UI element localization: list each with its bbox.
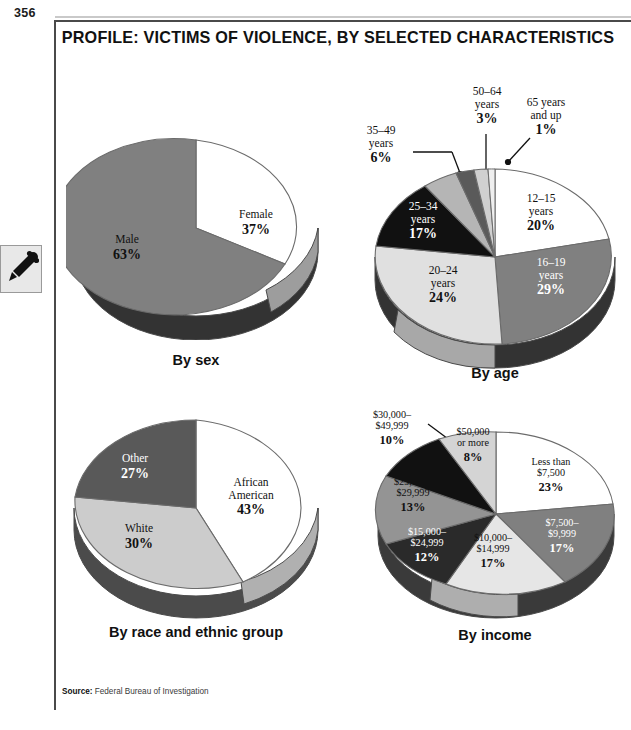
slice-label-16-19-line1: 16–19: [537, 256, 566, 268]
slice-label-65-up-line2: and up: [531, 109, 562, 121]
slice-label-10000-14999: $10,000– $14,999 17%: [456, 532, 530, 570]
slice-label-7500-9999: $7,500– $9,999 17%: [525, 517, 599, 555]
page-number: 356: [14, 6, 36, 20]
slice-label-male-name: Male: [115, 233, 139, 245]
chart-by-sex: Female 37% Male 63% By sex: [66, 130, 346, 380]
slice-label-20-24-line2: years: [431, 277, 455, 289]
slice-label-35-49-line2: years: [369, 137, 393, 149]
slice-label-15000-24999-pct: 12%: [390, 550, 464, 564]
slice-label-65-up: 65 years and up 1%: [510, 96, 582, 138]
slice-label-25-34: 25–34 years 17%: [392, 200, 454, 242]
slice-label-30000-49999: $30,000– $49,999 10%: [354, 409, 430, 447]
chart-by-race: African American 43% White 30% Other 27%…: [66, 410, 346, 660]
slice-label-male-pct: 63%: [94, 247, 160, 263]
slice-label-female: Female 37%: [218, 208, 294, 238]
top-rule: [55, 16, 631, 18]
slice-label-12-15-line1: 12–15: [527, 192, 556, 204]
slice-label-7500-9999-line1: $7,500–: [545, 517, 578, 528]
slice-label-25000-29999-line1: $25,000–: [394, 476, 432, 487]
slice-label-16-19: 16–19 years 29%: [520, 256, 582, 298]
slice-label-30000-49999-line2: $49,999: [375, 420, 408, 431]
slice-label-30000-49999-line1: $30,000–: [373, 409, 411, 420]
slice-label-25-34-line1: 25–34: [409, 200, 438, 212]
slice-label-15000-24999-line1: $15,000–: [408, 526, 446, 537]
slice-label-white-name: White: [125, 522, 153, 534]
slice-label-male: Male 63%: [94, 233, 160, 263]
slice-label-50000-or-more-line1: $50,000: [456, 426, 489, 437]
slice-label-less-7500-pct: 23%: [514, 480, 588, 494]
slice-label-10000-14999-pct: 17%: [456, 556, 530, 570]
slice-label-7500-9999-line2: $9,999: [548, 528, 576, 539]
chart-by-income: Less than $7,500 23% $7,500– $9,999 17% …: [370, 405, 630, 655]
slice-label-less-7500: Less than $7,500 23%: [514, 456, 588, 494]
slice-label-50-64-pct: 3%: [456, 111, 518, 127]
slice-label-50-64-line1: 50–64: [473, 85, 502, 97]
slice-label-african-american-line1: African: [233, 476, 268, 488]
slice-label-less-7500-line2: $7,500: [537, 467, 565, 478]
pie-by-age: 12–15 years 20% 16–19 years 29% 20–24 ye…: [370, 152, 620, 372]
figure-page: 356 PROFILE: VICTIMS OF VIOLENCE, BY SEL…: [0, 0, 631, 730]
slice-label-female-pct: 37%: [218, 222, 294, 238]
source-line: Source: Federal Bureau of Investigation: [62, 687, 209, 696]
slice-label-white-pct: 30%: [104, 536, 174, 552]
slice-label-50-64: 50–64 years 3%: [456, 85, 518, 127]
slice-label-50000-or-more-pct: 8%: [440, 450, 506, 464]
slice-label-50000-or-more: $50,000 or more 8%: [440, 426, 506, 464]
slice-label-65-up-line1: 65 years: [527, 96, 566, 108]
slice-label-less-7500-line1: Less than: [532, 456, 571, 467]
pie-by-race: African American 43% White 30% Other 27%: [66, 410, 326, 620]
caption-by-sex: By sex: [66, 352, 326, 368]
slice-label-15000-24999: $15,000– $24,999 12%: [390, 526, 464, 564]
slice-label-25-34-line2: years: [411, 213, 435, 225]
caption-by-age: By age: [370, 365, 620, 381]
slice-label-25000-29999-line2: $29,999: [396, 487, 429, 498]
slice-label-35-49: 35–49 years 6%: [350, 124, 412, 166]
slice-label-30000-49999-pct: 10%: [354, 433, 430, 447]
slice-label-female-name: Female: [239, 208, 273, 220]
slice-label-16-19-pct: 29%: [520, 282, 582, 298]
chart-by-age: 12–15 years 20% 16–19 years 29% 20–24 ye…: [370, 80, 630, 380]
slice-label-15000-24999-line2: $24,999: [410, 537, 443, 548]
caption-by-income: By income: [370, 627, 620, 643]
slice-label-other: Other 27%: [100, 452, 170, 482]
slice-label-25000-29999: $25,000– $29,999 13%: [376, 476, 450, 514]
caption-by-race: By race and ethnic group: [66, 624, 326, 640]
slice-label-50000-or-more-line2: or more: [457, 437, 489, 448]
slice-label-african-american-pct: 43%: [208, 502, 294, 518]
pen-icon[interactable]: [0, 245, 42, 293]
pie-svg-by-age: [370, 152, 620, 372]
slice-label-african-american: African American 43%: [208, 476, 294, 518]
slice-label-20-24-pct: 24%: [412, 290, 474, 306]
slice-label-other-pct: 27%: [100, 466, 170, 482]
slice-label-20-24: 20–24 years 24%: [412, 264, 474, 306]
slice-label-16-19-line2: years: [539, 269, 563, 281]
slice-label-35-49-line1: 35–49: [367, 124, 396, 136]
source-label: Source:: [62, 687, 92, 696]
pie-by-sex: Female 37% Male 63%: [66, 130, 326, 340]
slice-label-7500-9999-pct: 17%: [525, 541, 599, 555]
source-text: Federal Bureau of Investigation: [95, 687, 209, 696]
slice-label-12-15-pct: 20%: [510, 218, 572, 234]
slice-label-25000-29999-pct: 13%: [376, 500, 450, 514]
page-title: PROFILE: VICTIMS OF VIOLENCE, BY SELECTE…: [58, 28, 618, 47]
slice-label-other-name: Other: [122, 452, 148, 464]
slice-label-12-15-line2: years: [529, 205, 553, 217]
slice-label-65-up-pct: 1%: [510, 122, 582, 138]
slice-label-white: White 30%: [104, 522, 174, 552]
slice-label-african-american-line2: American: [228, 489, 273, 501]
slice-label-20-24-line1: 20–24: [429, 264, 458, 276]
slice-label-10000-14999-line1: $10,000–: [474, 532, 512, 543]
slice-label-50-64-line2: years: [475, 98, 499, 110]
slice-label-10000-14999-line2: $14,999: [476, 543, 509, 554]
slice-label-35-49-pct: 6%: [350, 150, 412, 166]
slice-label-12-15: 12–15 years 20%: [510, 192, 572, 234]
slice-label-25-34-pct: 17%: [392, 226, 454, 242]
